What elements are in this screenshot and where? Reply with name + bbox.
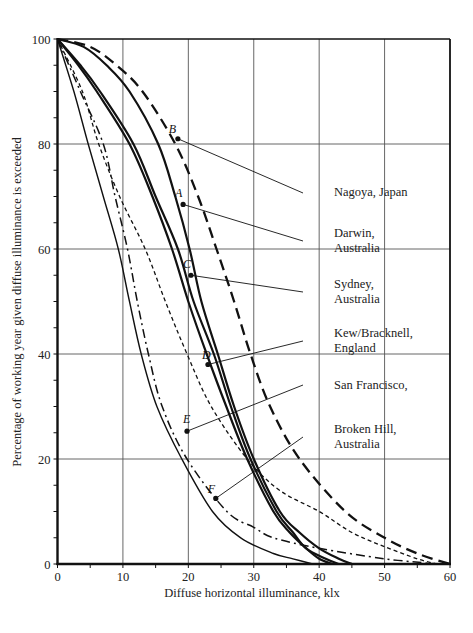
location-label-line: Darwin, [334, 226, 375, 240]
leader-line-e [187, 385, 303, 431]
location-label-f: Broken Hill,Australia [334, 422, 397, 451]
y-tick-label: 40 [38, 348, 51, 362]
marker-letter-f: F [207, 482, 216, 496]
location-label-d: Kew/Bracknell,England [334, 326, 413, 355]
marker-dot-d [205, 362, 210, 367]
x-tick-label: 40 [313, 570, 326, 584]
curve-sydney-australia [58, 39, 339, 564]
location-label-a: Darwin,Australia [334, 226, 380, 255]
marker-dot-f [213, 496, 218, 501]
y-tick-label: 20 [38, 453, 51, 467]
y-tick-label: 0 [44, 558, 50, 572]
location-label-line: England [334, 341, 376, 355]
marker-dot-c [188, 273, 193, 278]
marker-letter-b: B [169, 122, 177, 136]
x-tick-label: 60 [444, 570, 457, 584]
leader-line-a [183, 204, 303, 241]
x-tick-label: 0 [54, 570, 60, 584]
curve-darwin-australia [58, 39, 352, 564]
marker-dot-e [184, 429, 189, 434]
tick-labels: 0102030405060020406080100 [32, 33, 457, 585]
location-label-line: Australia [334, 437, 380, 451]
y-axis-title: Percentage of working year given diffuse… [10, 137, 24, 467]
x-tick-label: 30 [248, 570, 261, 584]
marker-dot-b [175, 136, 180, 141]
marker-dot-a [181, 202, 186, 207]
location-label-line: Australia [334, 241, 380, 255]
x-tick-label: 50 [378, 570, 391, 584]
location-labels: Nagoya, JapanDarwin,AustraliaSydney,Aust… [334, 185, 413, 451]
marker-letter-c: C [183, 257, 192, 271]
location-label-line: San Francisco, [334, 378, 408, 392]
leader-line-f [216, 437, 303, 498]
y-tick-label: 80 [38, 138, 51, 152]
illuminance-chart: BACDEF 0102030405060020406080100 Diffuse… [0, 0, 473, 633]
location-label-line: Kew/Bracknell, [334, 326, 413, 340]
location-label-line: Sydney, [334, 277, 374, 291]
x-tick-label: 10 [117, 570, 130, 584]
marker-letter-d: D [201, 348, 211, 362]
location-label-e: San Francisco, [334, 378, 408, 392]
leader-line-c [191, 275, 303, 292]
location-label-c: Sydney,Australia [334, 277, 380, 306]
location-label-line: Australia [334, 292, 380, 306]
location-label-b: Nagoya, Japan [334, 185, 408, 199]
y-tick-label: 100 [32, 33, 51, 47]
leader-line-b [178, 139, 303, 193]
leader-line-d [208, 341, 303, 365]
location-label-line: Nagoya, Japan [334, 185, 408, 199]
curve-kew-bracknell-england [58, 39, 333, 564]
marker-letter-a: A [174, 186, 183, 200]
x-tick-label: 20 [182, 570, 195, 584]
x-axis-title: Diffuse horizontal illuminance, klx [164, 586, 340, 600]
marker-letter-e: E [182, 412, 191, 426]
y-tick-label: 60 [38, 243, 51, 257]
curve-broken-hill-australia [58, 39, 313, 564]
location-label-line: Broken Hill, [334, 422, 397, 436]
